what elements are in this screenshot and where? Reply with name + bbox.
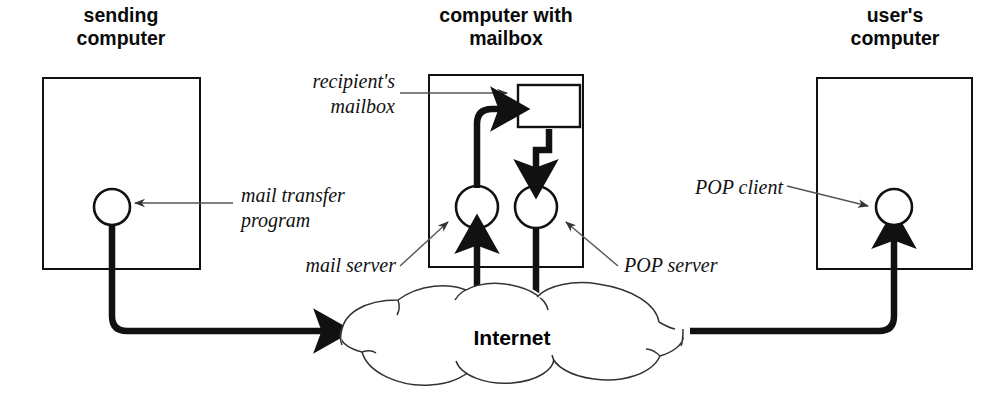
heading-sending-computer-line1: sending: [84, 4, 159, 26]
pop-client-node: [876, 189, 912, 225]
internet-cloud: Internet: [340, 283, 683, 386]
callout-recipients-mailbox-line2: mailbox: [331, 95, 396, 117]
cloud-label: Internet: [473, 326, 550, 349]
heading-sending-computer-line2: computer: [77, 27, 166, 49]
callout-recipients-mailbox-line1: recipient's: [313, 70, 396, 93]
email-flow-diagram: sending computer computer with mailbox u…: [0, 0, 1007, 394]
callout-mail-server: mail server: [305, 254, 396, 276]
heading-computer-with-mailbox-line1: computer with: [439, 4, 572, 26]
callout-mail-transfer-program-line2: program: [239, 209, 310, 232]
callout-pop-server: POP server: [623, 254, 718, 276]
callout-mail-transfer-program-line1: mail transfer: [241, 184, 345, 207]
callout-recipients-mailbox: recipient's mailbox: [313, 70, 396, 117]
heading-users-computer: user's computer: [851, 4, 940, 49]
sending-computer-box: [43, 78, 200, 269]
heading-computer-with-mailbox-line2: mailbox: [469, 27, 543, 49]
callout-pop-client: POP client: [694, 176, 783, 198]
heading-users-computer-line1: user's: [867, 4, 924, 26]
recipients-mailbox-box: [518, 85, 580, 127]
heading-computer-with-mailbox: computer with mailbox: [439, 4, 572, 49]
pop-server-node: [515, 186, 557, 228]
diagram-canvas: sending computer computer with mailbox u…: [0, 0, 1007, 394]
mail-transfer-program-node: [94, 189, 130, 225]
heading-sending-computer: sending computer: [77, 4, 166, 49]
heading-users-computer-line2: computer: [851, 27, 940, 49]
callout-mail-transfer-program: mail transfer program: [239, 184, 345, 232]
mail-server-node: [456, 186, 498, 228]
